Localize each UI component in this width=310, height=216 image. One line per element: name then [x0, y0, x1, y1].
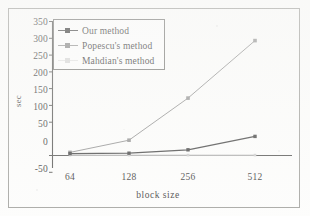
legend-entry-mahdian-method: Mahdian's method: [54, 53, 164, 68]
data-point-marker: [186, 148, 189, 151]
data-point-marker: [186, 96, 190, 100]
legend-box: Our method Popescu's method Mahdian's me…: [53, 19, 165, 70]
data-point-marker: [187, 154, 190, 157]
data-point-marker: [253, 135, 256, 138]
legend-marker-popescu-method: [58, 41, 78, 51]
data-point-marker: [127, 152, 130, 155]
figure-chart-block-size-vs-sec: 350 300 250 200 150 100 50 0 -50 64 128 …: [0, 0, 310, 216]
legend-label-popescu-method: Popescu's method: [82, 41, 152, 51]
series-line: [70, 136, 255, 153]
legend-label-mahdian-method: Mahdian's method: [82, 56, 154, 66]
legend-entry-our-method: Our method: [54, 23, 164, 38]
legend-entry-popescu-method: Popescu's method: [54, 38, 164, 53]
legend-label-our-method: Our method: [82, 26, 129, 36]
data-point-marker: [254, 154, 257, 157]
data-point-marker: [127, 138, 131, 142]
data-point-marker: [253, 39, 257, 43]
legend-marker-our-method: [58, 26, 78, 36]
legend-marker-mahdian-method: [58, 56, 78, 66]
data-point-marker: [68, 152, 71, 155]
series-our-method: [68, 135, 256, 156]
